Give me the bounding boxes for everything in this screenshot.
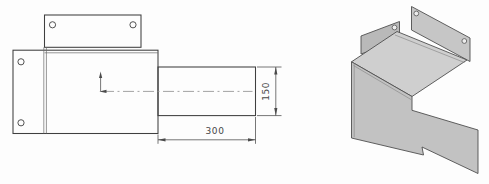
up-arrowhead-icon (99, 72, 102, 79)
technical-drawing: 300 150 (0, 0, 489, 184)
left-flange-hole-top (18, 59, 24, 65)
dimension-150: 150 (257, 67, 282, 116)
top-flange-hole-right (130, 22, 136, 28)
dim-300-arrow-right-icon (248, 138, 256, 141)
iso-back-plate-hole-left (414, 11, 419, 16)
origin-marker (99, 72, 107, 94)
top-flange-hole-left (49, 22, 55, 28)
dimension-300: 300 (158, 117, 256, 144)
dim-300-arrow-left-icon (158, 138, 166, 141)
dim-150-arrow-top-icon (274, 67, 277, 75)
drawing-canvas: 300 150 (0, 0, 489, 184)
top-flange-outline (45, 15, 142, 47)
left-flange-hole-bottom (18, 120, 24, 126)
iso-view (352, 7, 479, 174)
dim-150-arrow-bottom-icon (274, 108, 277, 116)
main-face-outline (13, 50, 158, 133)
dim-150-label: 150 (262, 82, 272, 101)
front-view: 300 150 (13, 15, 282, 144)
iso-back-plate-hole-right (462, 39, 467, 44)
iso-back-left-plate-hole (392, 25, 397, 30)
dim-300-label: 300 (206, 126, 225, 136)
